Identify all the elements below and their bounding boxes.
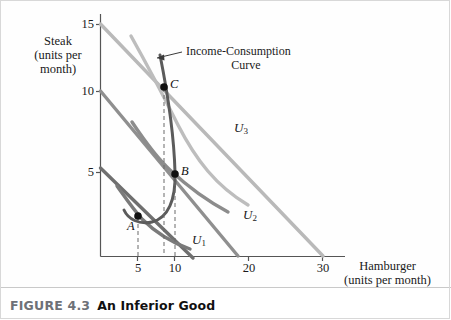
income-consumption-annotation: Income-Consumption Curve (186, 44, 306, 72)
curve-label-u2-sub: 2 (252, 213, 257, 223)
figure-number: FIGURE 4.3 (10, 298, 90, 313)
x-tick-label-20: 20 (241, 261, 257, 276)
point-c-marker (160, 83, 168, 91)
x-axis-title: Hamburger (units per month) (330, 259, 445, 287)
y-axis-title-line1: Steak (20, 34, 96, 48)
y-axis-title-line3: month) (20, 62, 96, 76)
figure-title: An Inferior Good (97, 298, 215, 313)
y-tick-label-15: 15 (72, 17, 94, 32)
icc-annotation-line1: Income-Consumption (186, 44, 306, 58)
point-label-a: A (127, 219, 135, 234)
figure-container: 15 10 5 5 10 20 30 Steak (units per mont… (0, 0, 451, 320)
indifference-curve-u2 (132, 122, 228, 212)
point-b-marker (171, 170, 179, 178)
y-tick-label-5: 5 (72, 165, 94, 180)
figure-caption-bar: FIGURE 4.3An Inferior Good (0, 287, 451, 320)
point-label-c: C (170, 77, 178, 92)
y-tick-label-10: 10 (72, 84, 94, 99)
curve-label-u3-sub: 3 (243, 126, 248, 136)
curve-label-u2-letter: U (243, 207, 252, 222)
curve-label-u2: U2 (243, 207, 257, 223)
curve-label-u3-letter: U (234, 120, 243, 135)
x-tick-label-5: 5 (131, 261, 145, 276)
figure-caption: FIGURE 4.3An Inferior Good (10, 295, 215, 314)
x-tick-label-10: 10 (167, 261, 183, 276)
x-axis-title-line1: Hamburger (330, 259, 445, 273)
y-axis-title: Steak (units per month) (20, 34, 96, 76)
x-axis-title-line2: (units per month) (330, 273, 445, 287)
curve-label-u1-sub: 1 (201, 238, 206, 248)
icc-annotation-line2: Curve (186, 58, 306, 72)
curve-label-u3: U3 (234, 120, 248, 136)
curve-label-u1: U1 (192, 232, 206, 248)
point-a-marker (134, 212, 142, 220)
point-label-b: B (181, 164, 189, 179)
curve-label-u1-letter: U (192, 232, 201, 247)
x-tick-label-30: 30 (315, 261, 331, 276)
y-axis-title-line2: (units per (20, 48, 96, 62)
